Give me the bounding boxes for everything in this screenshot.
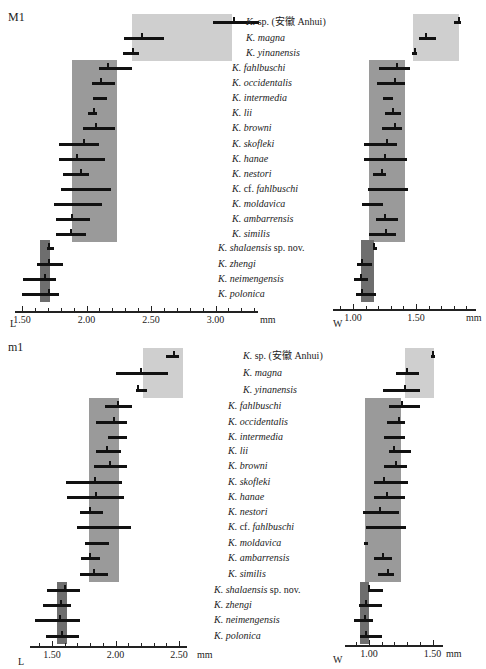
mean-tick — [458, 17, 460, 23]
mean-tick — [365, 631, 367, 637]
range-bar — [356, 293, 376, 296]
range-bar — [23, 278, 55, 281]
species-label: K. sp. (安徽 Anhui) — [243, 350, 323, 362]
mean-tick — [396, 63, 398, 69]
species-label: K. intermedia — [232, 92, 287, 104]
minor-tick — [125, 308, 126, 311]
mean-tick — [385, 229, 387, 235]
mean-tick — [365, 600, 367, 606]
mean-tick — [173, 351, 175, 357]
minor-tick — [466, 306, 467, 309]
range-bar — [383, 97, 393, 100]
mean-tick — [100, 78, 102, 84]
x-axis-line — [345, 645, 443, 647]
minor-tick — [99, 308, 100, 311]
range-bar — [377, 82, 405, 85]
major-tick — [433, 640, 434, 645]
species-label: K. intermedia — [228, 431, 283, 443]
mean-tick — [83, 139, 85, 145]
mean-tick — [360, 274, 362, 280]
major-tick — [52, 641, 53, 646]
genus-abbrev: K. — [228, 568, 240, 579]
mean-tick — [89, 507, 91, 513]
genus-abbrev: K. — [214, 599, 226, 610]
minor-tick — [190, 308, 191, 311]
range-bar — [384, 436, 404, 439]
species-label: K. browni — [232, 122, 272, 134]
range-bar — [364, 542, 368, 545]
minor-tick — [254, 308, 255, 311]
mean-tick — [401, 401, 403, 407]
species-label: K. magna — [243, 367, 282, 379]
genus-abbrev: K. — [246, 32, 258, 43]
species-label: K. ambarrensis — [228, 552, 289, 564]
minor-tick — [35, 308, 36, 311]
major-tick — [22, 306, 23, 311]
species-label: K. ambarrensis — [232, 213, 293, 225]
species-label: K. polonica — [214, 630, 261, 642]
species-label: K. zhengi — [214, 599, 252, 611]
species-label: K. polonica — [218, 288, 265, 300]
mean-tick — [137, 385, 139, 391]
major-tick — [179, 641, 180, 646]
minor-tick — [39, 643, 40, 646]
mean-tick — [361, 259, 363, 265]
range-bar — [83, 127, 115, 130]
minor-tick — [203, 308, 204, 311]
minor-tick — [128, 643, 129, 646]
range-bar — [373, 173, 386, 176]
unit-label: mm — [466, 312, 482, 323]
species-label: K. cf. fahlbuschi — [232, 183, 298, 195]
mean-tick — [80, 169, 82, 175]
mean-tick — [48, 243, 50, 249]
genus-abbrev: K. — [214, 584, 226, 595]
panel-title-M1: M1 — [8, 10, 25, 25]
genus-abbrev: K. — [232, 138, 244, 149]
mean-tick — [117, 401, 119, 407]
range-bar — [379, 67, 409, 70]
species-label: K. moldavica — [228, 537, 281, 549]
range-bar — [77, 526, 130, 529]
mean-tick — [233, 17, 235, 23]
species-label: K. fahlbuschi — [232, 62, 285, 74]
range-bar — [359, 604, 382, 607]
range-bar — [374, 496, 404, 499]
species-label: K. magna — [246, 32, 285, 44]
mean-tick — [71, 214, 73, 220]
minor-tick — [90, 643, 91, 646]
species-label: K. moldavica — [232, 198, 285, 210]
species-label: K. nestori — [228, 506, 267, 518]
species-label: K. zhengi — [218, 258, 256, 270]
mean-tick — [94, 477, 96, 483]
range-bar — [93, 97, 107, 100]
mean-tick — [93, 108, 95, 114]
genus-abbrev: K. — [228, 431, 240, 442]
range-bar — [22, 293, 59, 296]
major-tick — [416, 304, 417, 309]
mean-tick — [384, 154, 386, 160]
species-label: K. hanae — [232, 153, 268, 165]
mean-tick — [383, 477, 385, 483]
mean-tick — [382, 553, 384, 559]
minor-tick — [340, 306, 341, 309]
minor-tick — [454, 306, 455, 309]
major-tick — [151, 306, 152, 311]
range-bar — [364, 143, 397, 146]
species-label: K. similis — [232, 228, 270, 240]
unit-label: mm — [446, 648, 462, 659]
mean-tick — [109, 461, 111, 467]
tick-label: 1.00 — [360, 648, 378, 659]
range-bar — [99, 67, 131, 70]
range-bar — [369, 233, 395, 236]
tick-label: 2.50 — [142, 314, 160, 325]
axis-label-W: W — [333, 654, 342, 665]
range-bar — [364, 158, 407, 161]
tick-label: 2.50 — [170, 649, 188, 660]
genus-abbrev: K. — [232, 92, 244, 103]
species-label: K. yinanensis — [243, 384, 297, 396]
range-bar — [43, 604, 71, 607]
major-tick — [87, 306, 88, 311]
species-label: K. fahlbuschi — [228, 400, 281, 412]
genus-abbrev: K. — [214, 630, 226, 641]
tick-label: 1.50 — [43, 649, 61, 660]
